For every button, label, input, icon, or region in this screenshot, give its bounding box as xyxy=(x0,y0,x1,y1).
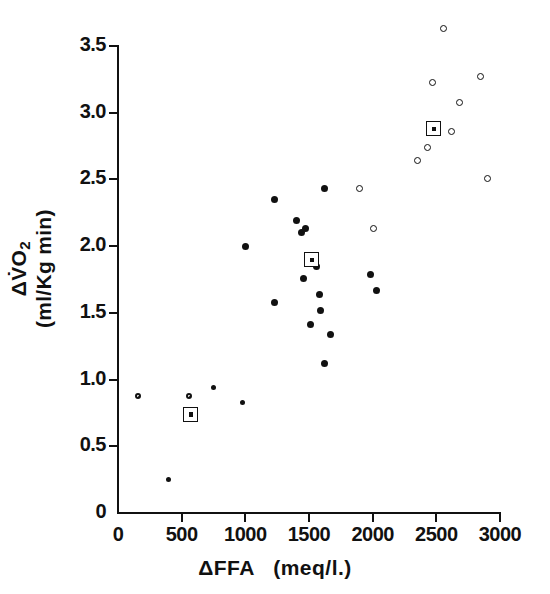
data-point-mean xyxy=(183,407,198,422)
data-point-filled xyxy=(242,243,249,250)
data-point-filled xyxy=(240,400,245,405)
x-tick-mark xyxy=(308,513,310,522)
data-point-filled xyxy=(316,291,323,298)
plot-area xyxy=(118,46,500,513)
y-tick-mark xyxy=(109,445,118,447)
y-tick-label: 0.5 xyxy=(60,433,106,456)
x-tick-mark xyxy=(499,513,501,522)
y-tick-label: 3.0 xyxy=(60,100,106,123)
y-tick-label: 1.0 xyxy=(60,367,106,390)
data-point-filled xyxy=(271,299,278,306)
data-point-filled xyxy=(321,360,328,367)
data-point-filled xyxy=(317,307,324,314)
y-axis-title: ΔV̇O2 (ml/Kg min) xyxy=(8,139,55,399)
data-point-open xyxy=(356,185,363,192)
y-tick-mark xyxy=(109,178,118,180)
data-point-open xyxy=(484,175,491,182)
x-tick-mark xyxy=(244,513,246,522)
data-point-open xyxy=(370,225,377,232)
data-point-filled xyxy=(321,185,328,192)
y-tick-mark xyxy=(109,112,118,114)
x-tick-label: 3000 xyxy=(463,523,537,546)
data-point-filled xyxy=(293,217,300,224)
x-axis-title-units: (meq/l.) xyxy=(273,556,352,579)
data-point-filled xyxy=(307,321,314,328)
y-axis-title-line1: ΔV̇O2 xyxy=(8,139,33,399)
y-axis-title-subscript: 2 xyxy=(16,241,33,250)
y-tick-label: 0 xyxy=(60,500,106,523)
data-point-open xyxy=(440,25,447,32)
y-tick-mark xyxy=(109,379,118,381)
data-point-open xyxy=(456,99,463,106)
data-point-filled xyxy=(271,196,278,203)
y-axis-title-line2: (ml/Kg min) xyxy=(33,139,56,399)
data-point-filled xyxy=(302,225,309,232)
data-point-filled xyxy=(166,477,171,482)
x-tick-mark xyxy=(372,513,374,522)
y-tick-label: 2.0 xyxy=(60,233,106,256)
y-tick-label: 3.5 xyxy=(60,33,106,56)
y-tick-mark xyxy=(109,245,118,247)
data-point-filled xyxy=(367,271,374,278)
data-point-open xyxy=(135,393,141,399)
data-point-open xyxy=(424,144,431,151)
x-axis-title: ΔFFA (meq/l.) xyxy=(0,556,550,580)
data-point-open xyxy=(414,157,421,164)
data-point-filled xyxy=(327,331,334,338)
data-point-open xyxy=(429,79,436,86)
data-point-open xyxy=(477,73,484,80)
y-tick-mark xyxy=(109,45,118,47)
x-tick-mark xyxy=(181,513,183,522)
data-point-filled xyxy=(373,287,380,294)
y-tick-mark xyxy=(109,312,118,314)
scatter-plot-figure: 00.51.01.52.02.53.03.5 05001000150020002… xyxy=(0,0,550,594)
y-tick-label: 2.5 xyxy=(60,166,106,189)
x-tick-mark xyxy=(435,513,437,522)
data-point-mean xyxy=(304,252,319,267)
x-axis-title-prefix: ΔFFA xyxy=(198,556,254,579)
data-point-open xyxy=(448,128,455,135)
data-point-filled xyxy=(300,275,307,282)
y-tick-label: 1.5 xyxy=(60,300,106,323)
data-point-mean xyxy=(426,121,441,136)
data-point-filled xyxy=(211,385,216,390)
data-point-open xyxy=(186,393,192,399)
